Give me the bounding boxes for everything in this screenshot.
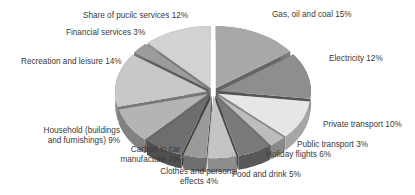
- label-private-transport: Private transport 10%: [323, 120, 402, 130]
- pie-chart: [0, 0, 415, 195]
- label-financial-services: Financial services 3%: [66, 28, 145, 38]
- label-recreation-leisure: Recreation and leisure 14%: [21, 57, 122, 67]
- label-clothes: Clothes and personal effects 4%: [149, 167, 249, 187]
- label-household: Household (buildings and furnishings) 9%: [42, 126, 120, 146]
- label-holiday-flights: Holiday flights 6%: [266, 150, 331, 160]
- label-carbon-car: Carbon in car manufacture 7%: [105, 145, 180, 165]
- label-public-transport: Public transport 3%: [297, 140, 368, 150]
- label-gas-oil-coal: Gas, oil and coal 15%: [272, 10, 352, 20]
- label-public-services: Share of pucilc services 12%: [83, 11, 188, 21]
- label-electricity: Electricity 12%: [329, 54, 383, 64]
